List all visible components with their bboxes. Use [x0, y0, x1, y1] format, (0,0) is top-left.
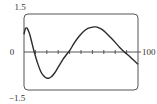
line-chart: 1.5 0 −1.5 100 [0, 0, 157, 104]
y-tick-label-top: 1.5 [14, 2, 26, 12]
x-tick-label-right: 100 [142, 47, 156, 57]
y-tick-label-bottom: −1.5 [9, 93, 26, 103]
y-tick-label-zero: 0 [10, 47, 15, 57]
